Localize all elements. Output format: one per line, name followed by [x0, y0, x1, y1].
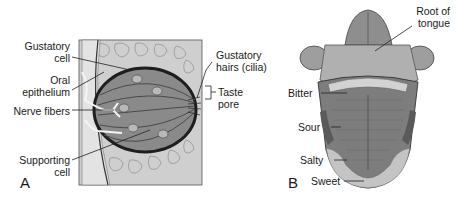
- label-gustatory-hairs: Gustatory hairs (cilia): [216, 49, 267, 73]
- label-line: hairs (cilia): [216, 61, 267, 73]
- label-line: Gustatory: [216, 49, 267, 61]
- label-line: Root of: [416, 5, 450, 17]
- label-sour: Sour: [298, 121, 320, 133]
- label-line: pore: [218, 98, 243, 110]
- panel-letter-a: A: [20, 175, 30, 191]
- label-root-of-tongue: Root of tongue: [416, 5, 450, 29]
- label-line: Gustatory: [24, 40, 70, 52]
- label-line: tongue: [416, 17, 450, 29]
- label-oral-epithelium: Oral epithelium: [22, 74, 70, 98]
- panel-letter-b: B: [288, 175, 298, 191]
- label-nerve-fibers: Nerve fibers: [13, 105, 70, 117]
- taste-bud-illustration: [79, 40, 202, 185]
- label-gustatory-cell: Gustatory cell: [24, 40, 70, 64]
- label-line: Nerve fibers: [13, 105, 70, 117]
- label-line: cell: [24, 52, 70, 64]
- label-bitter: Bitter: [288, 87, 313, 99]
- label-sweet: Sweet: [311, 175, 340, 187]
- label-line: Supporting: [19, 154, 70, 166]
- label-taste-pore: Taste pore: [218, 86, 243, 110]
- label-line: Oral: [22, 74, 70, 86]
- label-line: epithelium: [22, 86, 70, 98]
- label-line: Taste: [218, 86, 243, 98]
- label-salty: Salty: [300, 154, 323, 166]
